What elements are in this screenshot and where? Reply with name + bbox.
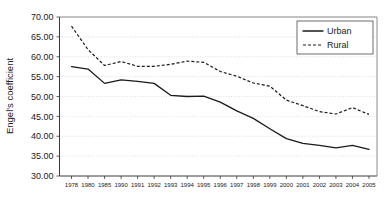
x-tick-label: 2000 — [280, 182, 294, 188]
x-axis-ticks: 1978198019851990199119921993199419951996… — [65, 176, 377, 188]
legend-label-urban: Urban — [327, 26, 352, 36]
x-tick-label: 2003 — [329, 182, 343, 188]
chart-legend: UrbanRural — [297, 21, 373, 54]
legend-label-rural: Rural — [327, 40, 349, 50]
y-axis-label-group: Engel's coefficient — [4, 58, 15, 134]
x-tick-label: 1991 — [131, 182, 145, 188]
y-axis-ticks: 30.0035.0040.0045.0050.0055.0060.0065.00… — [31, 12, 60, 181]
x-tick-label: 1992 — [147, 182, 161, 188]
x-tick-label: 2005 — [362, 182, 376, 188]
y-tick-label: 60.00 — [31, 52, 54, 62]
x-tick-label: 1978 — [65, 182, 79, 188]
y-tick-label: 40.00 — [31, 131, 54, 141]
chart-container: 30.0035.0040.0045.0050.0055.0060.0065.00… — [0, 0, 389, 200]
x-tick-label: 1994 — [181, 182, 195, 188]
x-tick-label: 2004 — [346, 182, 360, 188]
y-axis-label: Engel's coefficient — [4, 58, 15, 134]
x-tick-label: 1980 — [81, 182, 95, 188]
x-tick-label: 1995 — [197, 182, 211, 188]
x-tick-label: 1997 — [230, 182, 244, 188]
y-tick-label: 30.00 — [31, 171, 54, 181]
y-tick-label: 50.00 — [31, 92, 54, 102]
x-tick-label: 1993 — [164, 182, 178, 188]
x-tick-label: 1985 — [98, 182, 112, 188]
line-chart: 30.0035.0040.0045.0050.0055.0060.0065.00… — [0, 0, 389, 200]
x-tick-label: 1999 — [263, 182, 277, 188]
series-line-urban — [72, 67, 370, 150]
x-tick-label: 2002 — [313, 182, 327, 188]
y-tick-label: 55.00 — [31, 72, 54, 82]
y-tick-label: 70.00 — [31, 12, 54, 22]
y-tick-label: 65.00 — [31, 32, 54, 42]
x-tick-label: 1998 — [247, 182, 261, 188]
x-tick-label: 1990 — [114, 182, 128, 188]
y-tick-label: 35.00 — [31, 151, 54, 161]
y-tick-label: 45.00 — [31, 112, 54, 122]
x-tick-label: 1996 — [214, 182, 228, 188]
x-tick-label: 2001 — [296, 182, 310, 188]
